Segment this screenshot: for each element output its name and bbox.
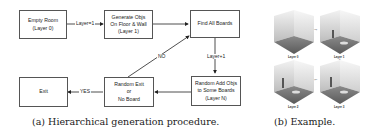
svg-text:←: ← (314, 77, 318, 82)
svg-text:→: → (314, 27, 318, 32)
example-label-2: Layer 1 (334, 55, 345, 59)
caption-b: (b) Example. (274, 116, 335, 127)
room-panel-4 (320, 60, 360, 104)
example-label-3: Layer 2 (288, 105, 299, 109)
room-panel-3 (274, 60, 314, 104)
example-renders: → ↓ ← (0, 0, 370, 135)
example-label-4: Layer 3 (334, 105, 345, 109)
example-label-1: Layer 0 (288, 55, 299, 59)
room-panel-2 (320, 10, 360, 54)
room-panel-1 (274, 10, 314, 54)
caption-a: (a) Hierarchical generation procedure. (32, 116, 219, 127)
